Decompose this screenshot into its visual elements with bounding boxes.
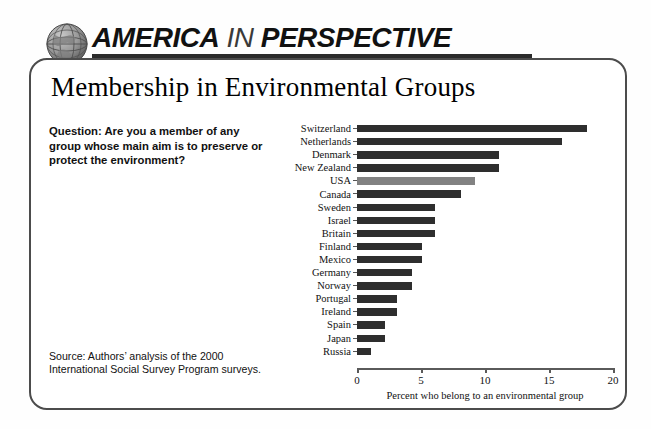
- bar-row: Ireland: [275, 305, 615, 318]
- bar-track: [357, 240, 615, 253]
- x-axis-tick-label: 10: [480, 374, 491, 386]
- bar-track: [357, 266, 615, 279]
- bar-row: Finland: [275, 240, 615, 253]
- bar-category-label: Ireland: [275, 306, 357, 317]
- bar-track: [357, 135, 615, 148]
- bar-track: [357, 201, 615, 214]
- bar-fill: [357, 151, 499, 158]
- bar-category-label: Germany: [275, 267, 357, 278]
- bar-fill: [357, 256, 422, 263]
- x-axis-tick: [613, 368, 615, 373]
- x-axis-tick: [549, 368, 551, 373]
- bar-fill: [357, 282, 412, 289]
- header-title-in: IN: [226, 22, 253, 53]
- bar-row: Switzerland: [275, 122, 615, 135]
- bar-category-label: Spain: [275, 319, 357, 330]
- bar-fill: [357, 321, 385, 328]
- bar-fill: [357, 243, 422, 250]
- bar-row: Mexico: [275, 253, 615, 266]
- bar-category-label: Netherlands: [275, 136, 357, 147]
- bar-fill: [357, 164, 499, 171]
- bar-fill: [357, 204, 435, 211]
- bar-category-label: Portugal: [275, 293, 357, 304]
- bar-track: [357, 253, 615, 266]
- x-axis-tick-label: 20: [608, 374, 619, 386]
- bar-category-label: Canada: [275, 189, 357, 200]
- bar-track: [357, 279, 615, 292]
- bar-track: [357, 305, 615, 318]
- bar-row: Canada: [275, 187, 615, 200]
- bar-track: [357, 187, 615, 200]
- question-text: Question: Are you a member of any group …: [49, 124, 274, 168]
- bar-fill: [357, 335, 385, 342]
- x-axis-tick: [421, 368, 423, 373]
- bar-fill: [357, 308, 397, 315]
- header-title-america: AMERICA: [92, 22, 219, 53]
- bar-track: [357, 122, 615, 135]
- bar-row: Britain: [275, 227, 615, 240]
- bar-rows: SwitzerlandNetherlandsDenmarkNew Zealand…: [275, 122, 615, 358]
- bar-category-label: Switzerland: [275, 123, 357, 134]
- bar-fill: [357, 125, 587, 132]
- header-title: AMERICA IN PERSPECTIVE: [92, 22, 451, 54]
- x-axis-tick-label: 0: [354, 374, 360, 386]
- bar-row: New Zealand: [275, 161, 615, 174]
- bar-track: [357, 318, 615, 331]
- bar-category-label: Denmark: [275, 149, 357, 160]
- bar-row: Russia: [275, 345, 615, 358]
- bar-row: USA: [275, 174, 615, 187]
- page-title: Membership in Environmental Groups: [51, 72, 475, 103]
- bar-fill: [357, 348, 371, 355]
- bar-row: Spain: [275, 318, 615, 331]
- header-banner: AMERICA IN PERSPECTIVE: [0, 0, 651, 62]
- bar-track: [357, 174, 615, 187]
- bar-category-label: Norway: [275, 280, 357, 291]
- bar-fill: [357, 190, 461, 197]
- bar-category-label: Russia: [275, 346, 357, 357]
- bar-category-label: Mexico: [275, 254, 357, 265]
- bar-row: Germany: [275, 266, 615, 279]
- header-title-perspective: PERSPECTIVE: [261, 22, 452, 53]
- bar-row: Portugal: [275, 292, 615, 305]
- bar-category-label: Israel: [275, 215, 357, 226]
- x-axis-title: Percent who belong to an environmental g…: [357, 390, 613, 401]
- bar-track: [357, 227, 615, 240]
- x-axis-tick: [357, 368, 359, 373]
- bar-fill: [357, 217, 435, 224]
- bar-row: Denmark: [275, 148, 615, 161]
- bar-fill: [357, 230, 435, 237]
- bar-track: [357, 332, 615, 345]
- bar-row: Sweden: [275, 201, 615, 214]
- bar-row: Netherlands: [275, 135, 615, 148]
- bar-category-label: Britain: [275, 228, 357, 239]
- bar-row: Japan: [275, 332, 615, 345]
- source-text: Source: Authors’ analysis of the 2000 In…: [49, 350, 274, 376]
- bar-category-label: Finland: [275, 241, 357, 252]
- bar-fill: [357, 138, 562, 145]
- bar-category-label: USA: [275, 175, 357, 186]
- bar-track: [357, 345, 615, 358]
- x-axis-tick: [485, 368, 487, 373]
- bar-category-label: New Zealand: [275, 162, 357, 173]
- bar-chart: SwitzerlandNetherlandsDenmarkNew Zealand…: [275, 122, 615, 402]
- bar-category-label: Japan: [275, 333, 357, 344]
- bar-fill: [357, 295, 397, 302]
- bar-row: Norway: [275, 279, 615, 292]
- x-axis-tick-label: 5: [418, 374, 424, 386]
- bar-track: [357, 292, 615, 305]
- bar-row: Israel: [275, 214, 615, 227]
- bar-track: [357, 148, 615, 161]
- bar-track: [357, 161, 615, 174]
- bar-category-label: Sweden: [275, 202, 357, 213]
- x-axis-tick-label: 15: [544, 374, 555, 386]
- bar-track: [357, 214, 615, 227]
- bar-fill: [357, 269, 412, 276]
- chart-card: Membership in Environmental Groups Quest…: [29, 58, 627, 410]
- bar-fill: [357, 177, 475, 184]
